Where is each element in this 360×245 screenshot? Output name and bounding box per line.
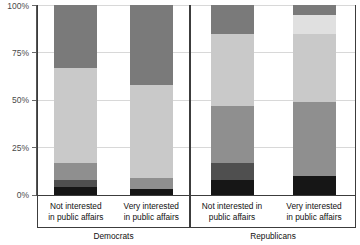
bar-segment: [54, 163, 97, 180]
x-tick-line1: Very interested: [286, 201, 341, 212]
x-tick-line2: in public affairs: [48, 212, 103, 223]
x-tick-republicans-very-interested: Very interested in public affairs: [273, 196, 355, 227]
stacked-bar-chart: 100% 75% 50% 25% 0%: [0, 0, 360, 245]
x-tick-line2: in public affairs: [124, 212, 179, 223]
x-tick-republicans-not-interested: Not interested in public affairs: [191, 196, 273, 227]
y-tick-label-50: 50%: [12, 96, 29, 105]
x-tick-line1: Not interested: [50, 201, 102, 212]
plot-area-republicans: [191, 5, 355, 195]
y-tick-label-0: 0%: [17, 191, 29, 200]
bar-democrats-not-interested[interactable]: [54, 5, 97, 195]
x-axis-republicans: Not interested in public affairs Very in…: [190, 195, 356, 228]
panel-democrats: [37, 5, 190, 195]
bar-republicans-not-interested[interactable]: [211, 5, 254, 195]
bar-republicans-very-interested[interactable]: [293, 5, 336, 195]
y-tick-label-75: 75%: [12, 49, 29, 58]
bar-segment: [211, 34, 254, 106]
bar-democrats-very-interested[interactable]: [130, 5, 173, 195]
bar-segment: [54, 68, 97, 163]
x-tick-democrats-very-interested: Very interested in public affairs: [114, 196, 190, 227]
bar-segment: [293, 34, 336, 102]
bar-segment: [54, 5, 97, 68]
panel-republicans: [190, 5, 356, 195]
bar-segment: [211, 106, 254, 163]
bar-segment: [211, 5, 254, 34]
bar-segment: [130, 178, 173, 189]
x-tick-line2: in public affairs: [286, 212, 341, 223]
bar-segment: [130, 5, 173, 85]
bar-segment: [293, 102, 336, 176]
x-tick-line1: Not interested in: [202, 201, 262, 212]
bar-segment: [130, 85, 173, 178]
bar-segment: [54, 180, 97, 188]
bar-segment: [293, 15, 336, 34]
y-axis: 100% 75% 50% 25% 0%: [0, 0, 32, 245]
y-tick-label-25: 25%: [12, 144, 29, 153]
x-tick-democrats-not-interested: Not interested in public affairs: [38, 196, 114, 227]
plot-area-democrats: [38, 5, 189, 195]
bar-segment: [211, 180, 254, 195]
x-tick-line2: public affairs: [209, 212, 255, 223]
bar-segment: [211, 163, 254, 180]
x-tick-line1: Very interested: [124, 201, 179, 212]
bar-segment: [293, 176, 336, 195]
x-axis-democrats: Not interested in public affairs Very in…: [37, 195, 190, 228]
panel-title-republicans: Republicans: [190, 231, 356, 241]
y-tick-label-100: 100%: [7, 2, 29, 11]
bar-segment: [293, 5, 336, 15]
bar-segment: [54, 187, 97, 195]
panel-title-democrats: Democrats: [37, 231, 190, 241]
